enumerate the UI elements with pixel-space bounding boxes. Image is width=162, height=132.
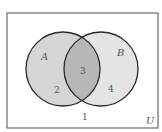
set-a-label: A	[40, 51, 48, 62]
set-b-label: B	[116, 47, 124, 58]
region-b-only-label: 4	[108, 84, 114, 94]
region-outside-label: 1	[82, 112, 88, 122]
universe-label: U	[146, 115, 155, 126]
region-intersection-label: 3	[80, 66, 86, 76]
region-a-only-label: 2	[54, 85, 60, 95]
venn-diagram: A B 2 3 4 1 U	[0, 0, 162, 132]
